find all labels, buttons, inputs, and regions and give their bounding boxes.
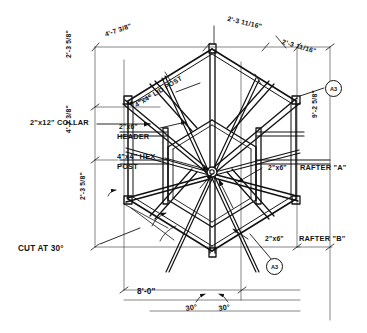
header-label-name: HEADER: [117, 133, 149, 140]
header-label-size: 2"x6": [119, 124, 138, 131]
angle-left-label: 30°: [185, 303, 198, 312]
center-hub: [207, 167, 217, 177]
drawing-sheet: 4'-7 3/8" 2'-3 11/16" 2'-3 11/16" 2'-3 5…: [0, 0, 367, 333]
rafter-a-size: 2"x6": [268, 165, 287, 172]
rafter-b-size: 2"x6": [265, 236, 284, 243]
angle-right-label: 30°: [218, 303, 231, 312]
rafter-a-name: RAFTER "A": [300, 164, 346, 171]
roof-outer-hexagon: [128, 49, 296, 251]
construction-marks: [165, 26, 286, 84]
rafter-b-name: RAFTER "B": [299, 235, 345, 242]
hex-post-label-line2: POST: [117, 163, 138, 170]
dim-left-bottom: 2'-3 5/8": [80, 172, 87, 200]
detail-callout-bottom-center[interactable]: A3: [266, 258, 283, 275]
cut-note-label: CUT AT 30°: [18, 245, 64, 253]
detail-callout-top-right[interactable]: A3: [325, 80, 342, 97]
collar-label: 2"x12" COLLAR: [30, 119, 89, 126]
hex-posts: [124, 44, 300, 257]
dim-right-vertical: 9'-2 5/8": [312, 90, 319, 118]
hex-post-label-line1: 4"x4" HEX: [117, 153, 155, 160]
dim-bottom-width: 8'-0": [137, 288, 156, 296]
dim-left-upper: 2'-3 5/8": [66, 30, 73, 58]
